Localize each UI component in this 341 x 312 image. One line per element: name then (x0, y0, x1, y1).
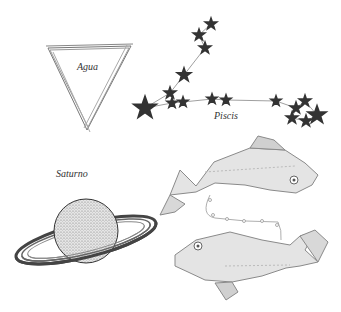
planet-label: Saturno (56, 168, 88, 179)
star-icon (169, 100, 175, 106)
upper-fish (160, 136, 318, 215)
star-icon (293, 105, 300, 111)
star-icon (273, 98, 279, 104)
star-icon (223, 97, 229, 103)
water-triangle-symbol (46, 44, 133, 132)
star-icon (196, 32, 203, 38)
star-icon (180, 99, 186, 105)
star-icon (180, 71, 188, 78)
star-icon (312, 110, 322, 119)
star-icon (202, 45, 209, 51)
saturn-planet (12, 199, 160, 274)
constellation-label: Piscis (214, 110, 238, 121)
star-icon (289, 115, 296, 121)
fish-cord (206, 195, 281, 240)
star-icon (209, 96, 215, 102)
water-label: Agua (77, 61, 98, 72)
star-icon (139, 102, 150, 113)
star-icon (208, 21, 215, 27)
illustration-canvas (0, 0, 341, 312)
constellation-stars (139, 21, 321, 124)
lower-fish (175, 230, 328, 300)
star-icon (167, 90, 174, 96)
star-icon (302, 98, 309, 104)
star-icon (303, 118, 310, 124)
